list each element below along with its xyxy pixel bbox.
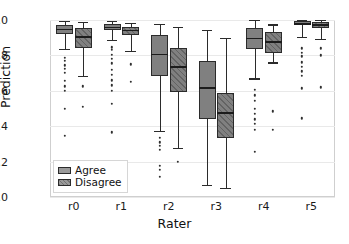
cap-lower	[59, 49, 69, 50]
median-line	[104, 27, 121, 29]
y-tick-label: 0.8	[0, 50, 8, 61]
whisker-upper	[207, 30, 208, 61]
whisker-lower	[131, 35, 132, 51]
x-tick-label-r1: r1	[115, 200, 127, 213]
x-axis-label: Rater	[0, 216, 349, 231]
cap-upper	[173, 27, 183, 28]
median-line	[170, 66, 187, 68]
whisker-upper	[160, 24, 161, 36]
cap-upper	[268, 24, 278, 25]
cap-upper	[78, 22, 88, 23]
cap-lower	[125, 51, 135, 52]
gridline	[50, 91, 335, 92]
box-rect	[199, 61, 216, 119]
cap-lower	[107, 40, 117, 41]
legend-item-agree: Agree	[58, 165, 122, 176]
box-rect	[151, 35, 168, 76]
cap-lower	[202, 185, 212, 186]
whisker-lower	[178, 92, 179, 149]
legend: AgreeDisagree	[53, 160, 128, 193]
median-line	[265, 41, 282, 43]
box-rect	[75, 28, 92, 48]
legend-label: Agree	[75, 165, 106, 176]
y-tick-label: 0.2	[0, 156, 8, 167]
median-line	[75, 36, 92, 38]
y-tick-label: 1.0	[0, 15, 8, 26]
cap-lower	[220, 188, 230, 189]
cap-upper	[154, 24, 164, 25]
cap-upper	[249, 20, 259, 21]
cap-lower	[297, 37, 307, 38]
cap-upper	[107, 21, 117, 22]
median-line	[56, 29, 73, 31]
cap-lower	[315, 39, 325, 40]
box-rect	[170, 48, 187, 91]
x-tick-label-r2: r2	[163, 200, 175, 213]
plot-area: AgreeDisagree	[50, 20, 335, 197]
gridline	[50, 126, 335, 127]
x-tick-label-r4: r4	[258, 200, 270, 213]
whisker-lower	[207, 119, 208, 184]
whisker-lower	[112, 30, 113, 40]
whisker-upper	[226, 38, 227, 94]
y-tick-label: 0.0	[0, 192, 8, 203]
box-rect	[217, 93, 234, 137]
legend-swatch-disagree	[58, 179, 71, 186]
whisker-lower	[302, 25, 303, 37]
whisker-upper	[255, 20, 256, 28]
x-tick-label-r3: r3	[210, 200, 222, 213]
whisker-lower	[160, 76, 161, 131]
median-line	[217, 112, 234, 114]
x-tick-label-r5: r5	[305, 200, 317, 213]
boxplot-figure: Prediction 0.00.20.40.60.81.0 AgreeDisag…	[0, 0, 349, 244]
gridline	[50, 20, 335, 21]
x-tick-label-r0: r0	[68, 200, 80, 213]
cap-upper	[220, 38, 230, 39]
cap-upper	[125, 23, 135, 24]
cap-lower	[78, 76, 88, 77]
cap-lower	[268, 62, 278, 63]
legend-item-disagree: Disagree	[58, 177, 122, 188]
cap-lower	[154, 131, 164, 132]
gridline	[50, 55, 335, 56]
cap-upper	[59, 21, 69, 22]
legend-swatch-agree	[58, 167, 71, 174]
y-tick-label: 0.4	[0, 121, 8, 132]
cap-upper	[202, 30, 212, 31]
median-line	[122, 30, 139, 32]
whisker-lower	[83, 48, 84, 75]
legend-label: Disagree	[75, 177, 122, 188]
whisker-upper	[273, 24, 274, 32]
median-line	[151, 54, 168, 56]
median-line	[294, 23, 311, 25]
whisker-lower	[255, 49, 256, 78]
whisker-lower	[226, 138, 227, 188]
median-line	[246, 38, 263, 40]
cap-lower	[249, 78, 259, 79]
median-line	[312, 24, 329, 26]
whisker-lower	[321, 28, 322, 39]
whisker-lower	[65, 34, 66, 49]
whisker-upper	[178, 27, 179, 48]
y-tick-label: 0.6	[0, 85, 8, 96]
cap-lower	[173, 148, 183, 149]
whisker-lower	[273, 53, 274, 63]
gridline	[50, 197, 335, 198]
median-line	[199, 87, 216, 89]
